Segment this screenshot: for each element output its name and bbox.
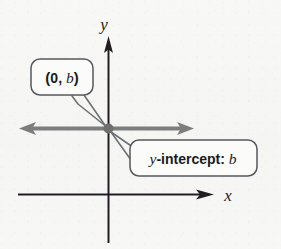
figure-canvas: (0, b) y-intercept: b y x y x (0, b) y-i… <box>0 0 281 249</box>
y-axis-label: y <box>98 15 108 34</box>
point-callout[interactable]: (0, b) <box>31 59 93 95</box>
point-callout-text: (0, b) <box>45 69 78 86</box>
intercept-callout-text: y-intercept: b <box>148 150 237 167</box>
x-axis-label: x <box>223 186 232 205</box>
intercept-callout[interactable]: y-intercept: b <box>130 140 257 176</box>
point-callout-leader <box>72 95 106 126</box>
